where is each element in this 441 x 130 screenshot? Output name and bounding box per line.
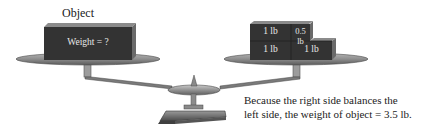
object-label: Object [62,6,94,21]
caption-line-1: Because the right side balances the [244,93,412,107]
weight-block-label: 1 lb [250,44,291,54]
weight-block-label: 1 lb [291,44,332,54]
caption-line-2: left side, the weight of object = 3.5 lb… [244,107,412,121]
object-block-label-area: Weight = ? [44,27,132,60]
weight-block-1lb-bottom-left: 1 lb [250,41,291,60]
weight-block-half-lb: 0.5 lb [291,24,310,41]
caption: Because the right side balances the left… [244,93,412,121]
weight-block-label: 1 lb [250,26,291,36]
weight-block-1lb-bottom-right: 1 lb [291,41,332,60]
object-weight-text: Weight = ? [44,37,132,47]
scale-pivot [168,75,220,106]
weight-block-1lb-top: 1 lb [250,24,291,41]
scale-base [158,105,226,124]
